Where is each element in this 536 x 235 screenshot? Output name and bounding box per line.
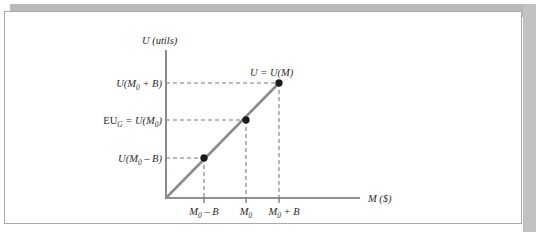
panel-shadow-right (523, 4, 536, 232)
x-tick-high-post: + B (281, 206, 300, 217)
data-point-low (201, 155, 208, 162)
data-point-mid (243, 117, 250, 124)
y-tick-mid-post: = U(M (123, 115, 156, 127)
x-tick-label-mid: M0 (239, 206, 253, 220)
data-point-high (276, 80, 283, 87)
y-tick-label-high: U(M0 + B) (116, 78, 162, 92)
y-axis-title: U (utils) (142, 35, 178, 47)
y-tick-label-mid: EUG = U(M0) (103, 115, 162, 129)
utility-curve (166, 83, 279, 198)
x-tick-label-low: M0 – B (188, 206, 219, 220)
y-tick-mid-post2: ) (158, 115, 163, 127)
x-tick-label-high: M0 + B (267, 206, 300, 220)
plot-area: U (utils) M ($) U = U(M) U(M0 + B) EUG =… (5, 12, 523, 225)
y-tick-low-pre: U(M (118, 153, 139, 165)
curve-label: U = U(M) (250, 67, 294, 79)
x-axis-title: M ($) (367, 193, 392, 205)
y-tick-high-post: + B) (140, 78, 163, 90)
x-tick-low-post: – B (202, 206, 220, 217)
y-tick-high-pre: U(M (116, 78, 137, 90)
y-tick-low-post: – B) (142, 153, 163, 165)
y-tick-mid-pre: EU (103, 115, 117, 126)
y-tick-label-low: U(M0 – B) (118, 153, 162, 167)
figure-panel: U (utils) M ($) U = U(M) U(M0 + B) EUG =… (4, 11, 522, 224)
x-tick-mid-sub: 0 (249, 211, 253, 220)
